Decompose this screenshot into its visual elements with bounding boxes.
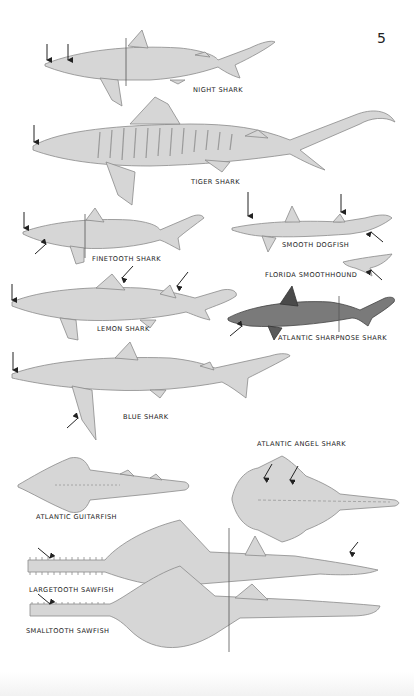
atlantic-angel-shark-label: ATLANTIC ANGEL SHARK [257,440,346,448]
field-guide-page: 5 NIGHT SHARK TIGER SHARK FINETOOTH SHAR… [0,0,414,696]
smooth-dogfish-label: SMOOTH DOGFISH [282,241,349,249]
page-number: 5 [377,30,386,46]
night-shark-label: NIGHT SHARK [193,86,243,94]
atlantic-guitarfish-illustration [18,458,189,513]
blue-shark-label: BLUE SHARK [123,413,169,421]
lemon-shark-label: LEMON SHARK [97,325,150,333]
largetooth-sawfish-label: LARGETOOTH SAWFISH [29,586,114,594]
night-shark-illustration [45,30,275,106]
smalltooth-sawfish-label: SMALLTOOTH SAWFISH [26,627,109,635]
atlantic-sharpnose-shark-label: ATLANTIC SHARPNOSE SHARK [278,334,387,342]
tiger-shark-label: TIGER SHARK [191,178,240,186]
blue-shark-illustration [12,342,290,440]
largetooth-sawfish-illustration [28,520,378,587]
page-bottom-edge [0,672,414,696]
tiger-shark-illustration [33,97,395,205]
finetooth-shark-label: FINETOOTH SHARK [92,255,161,263]
atlantic-sharpnose-shark-illustration [228,286,395,340]
atlantic-angel-shark-illustration [232,456,399,542]
florida-smoothhound-label: FLORIDA SMOOTHHOUND [265,271,357,279]
atlantic-guitarfish-label: ATLANTIC GUITARFISH [36,513,117,521]
